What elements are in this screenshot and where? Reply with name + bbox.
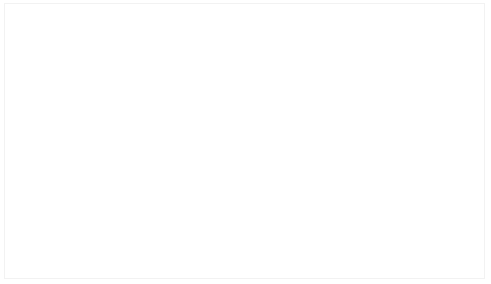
data-table: [5, 200, 484, 262]
plot-wrapper: [5, 4, 484, 207]
bar-series-group: [71, 19, 476, 196]
plot-area: [71, 19, 476, 196]
chart-frame: [4, 3, 485, 279]
y-axis: [23, 19, 67, 196]
